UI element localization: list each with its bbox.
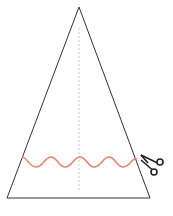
triangle-outline [7, 7, 150, 198]
scissors-icon [141, 155, 163, 175]
wavy-cut-line [22, 157, 137, 167]
triangle-cut-diagram [0, 0, 173, 216]
diagram-canvas [0, 0, 173, 216]
